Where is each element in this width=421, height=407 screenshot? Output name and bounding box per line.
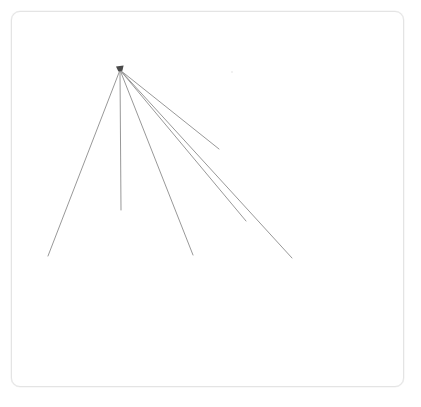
apex-blob [116, 66, 124, 72]
marker-group [116, 66, 233, 73]
ray-2-vertical [120, 70, 121, 210]
ray-4-upperright [120, 70, 219, 149]
ray-5-midright [120, 70, 246, 221]
ray-1-left [48, 70, 120, 256]
ray-group [48, 70, 292, 258]
figure-canvas [0, 0, 421, 407]
faint-speck [231, 71, 233, 73]
ray-diagram-svg [0, 0, 421, 407]
ray-3-downright [120, 70, 193, 255]
ray-6-lowerright [120, 70, 292, 258]
